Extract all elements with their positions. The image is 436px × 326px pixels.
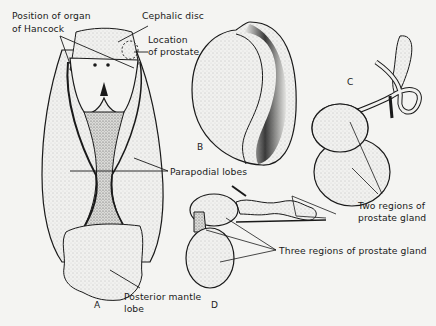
panel-c-drawing — [312, 36, 419, 206]
label-organ-of-hancock-1: Position of organ — [12, 10, 91, 21]
label-organ-of-hancock-2: of Hancock — [12, 23, 64, 34]
label-location-2: of prostate — [148, 46, 199, 57]
panel-d-drawing — [186, 186, 336, 288]
label-posterior-mantle-1: Posterior mantle — [124, 291, 201, 302]
label-location-1: Location — [148, 34, 188, 45]
label-two-regions-2: prostate gland — [358, 212, 426, 223]
label-parapodial-lobes: Parapodial lobes — [170, 166, 247, 177]
label-three-regions: Three regions of prostate gland — [279, 245, 427, 256]
anatomical-figure: Position of organ of Hancock Cephalic di… — [0, 0, 436, 326]
panel-label-b: B — [197, 142, 203, 152]
figure-drawing — [0, 0, 436, 326]
panel-label-d: D — [211, 300, 218, 310]
label-two-regions-1: Two regions of — [358, 200, 425, 211]
panel-a-drawing — [42, 28, 163, 300]
panel-b-drawing — [192, 22, 296, 165]
panel-label-c: C — [347, 77, 353, 87]
label-posterior-mantle-2: lobe — [124, 303, 144, 314]
panel-label-a: A — [94, 300, 100, 310]
label-cephalic-disc: Cephalic disc — [142, 10, 204, 21]
